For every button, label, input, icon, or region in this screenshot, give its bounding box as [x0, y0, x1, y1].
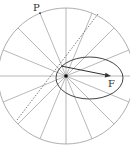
label-F: F — [108, 78, 115, 89]
label-P: P — [33, 2, 40, 13]
diagram-canvas: P F — [0, 0, 130, 153]
center-point — [64, 74, 68, 78]
dotted-line — [17, 14, 98, 120]
diagram-svg: P F — [0, 0, 130, 153]
arrowhead-icon — [105, 73, 111, 78]
